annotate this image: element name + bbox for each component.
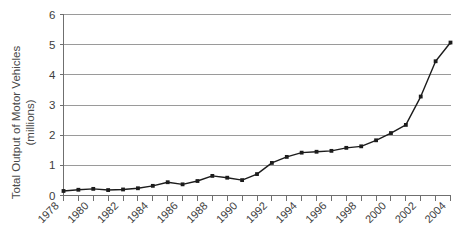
x-tick-label: 1984 [124,199,150,225]
x-tick-label: 1996 [303,199,329,225]
data-point-marker [359,144,363,148]
data-point-marker [62,189,66,193]
x-tick-labels-group: 1978198019821984198619881990199219941996… [35,199,448,225]
data-series-line [64,43,451,191]
data-point-marker [136,186,140,190]
x-tick-label: 1978 [35,199,61,225]
y-tick-label: 2 [49,129,55,141]
data-point-marker [151,184,155,188]
x-tick-label: 2004 [422,199,448,225]
data-point-marker [419,95,423,99]
gridlines-group [64,15,451,196]
y-tick-label: 1 [49,159,55,171]
x-tick-marks-group [64,196,451,201]
data-point-marker [76,188,80,192]
data-point-marker [449,41,453,45]
x-tick-label: 2002 [392,199,418,225]
data-point-marker [225,176,229,180]
x-tick-label: 1988 [184,199,210,225]
x-tick-label: 1990 [214,199,240,225]
data-point-marker [121,188,125,192]
data-point-marker [404,123,408,127]
data-point-marker [270,161,274,165]
data-point-marker [344,146,348,150]
data-point-marker [374,138,378,142]
y-tick-label: 6 [49,9,55,21]
y-tick-label: 4 [49,69,56,81]
x-tick-label: 1986 [154,199,180,225]
data-point-marker [196,179,200,183]
data-point-marker [389,131,393,135]
y-tick-marks-group [60,15,64,196]
y-tick-labels-group: 0123456 [49,9,56,202]
data-point-marker [330,149,334,153]
data-point-marker [181,182,185,186]
x-tick-label: 1994 [273,199,299,225]
x-tick-label: 1980 [65,199,91,225]
line-chart-plot: 0123456 19781980198219841986198819901992… [0,0,464,245]
x-tick-label: 1998 [333,199,359,225]
data-point-marker [255,172,259,176]
data-point-marker [434,59,438,63]
data-point-marker [240,178,244,182]
x-tick-label: 1982 [95,199,121,225]
data-point-marker [166,180,170,184]
data-point-marker [106,188,110,192]
data-point-markers-group [62,41,453,193]
data-point-marker [210,174,214,178]
data-point-marker [285,155,289,159]
y-tick-label: 3 [49,99,55,111]
chart-container: Total Output of Motor Vehicles (millions… [0,0,464,245]
y-tick-label: 5 [49,39,55,51]
data-point-marker [91,187,95,191]
data-point-marker [300,151,304,155]
x-tick-label: 2000 [363,199,389,225]
data-point-marker [315,150,319,154]
x-tick-label: 1992 [244,199,270,225]
